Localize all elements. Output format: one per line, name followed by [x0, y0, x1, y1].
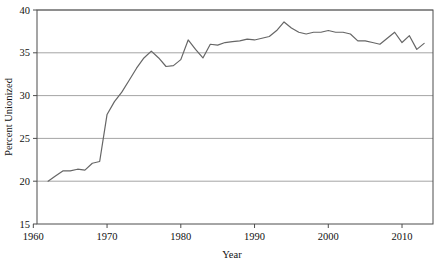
x-axis-title: Year [222, 249, 242, 260]
y-tick-label: 15 [20, 219, 31, 230]
y-tick-label: 35 [20, 47, 31, 58]
y-tick-label: 20 [20, 176, 31, 187]
y-axis-ticks: 152025303540 [20, 5, 38, 230]
x-tick-label: 1980 [170, 231, 191, 242]
plot-background [37, 10, 433, 224]
chart-figure: 152025303540 196019701980199020002010 Ye… [0, 0, 440, 265]
x-tick-label: 1970 [97, 231, 118, 242]
y-tick-label: 40 [20, 5, 31, 16]
x-tick-label: 1960 [23, 231, 44, 242]
y-axis-title: Percent Unionized [3, 77, 14, 156]
x-tick-label: 2010 [392, 231, 413, 242]
y-tick-label: 25 [20, 133, 31, 144]
x-axis-ticks: 196019701980199020002010 [23, 224, 413, 242]
line-chart: 152025303540 196019701980199020002010 Ye… [0, 0, 440, 265]
x-tick-label: 1990 [244, 231, 265, 242]
x-tick-label: 2000 [318, 231, 339, 242]
y-tick-label: 30 [20, 90, 31, 101]
